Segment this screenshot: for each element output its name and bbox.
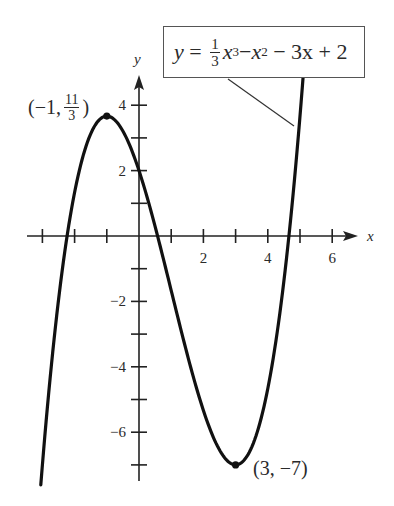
x-axis-label: x: [366, 228, 374, 244]
eq-term1: x: [223, 39, 233, 65]
y-tick-label: 2: [119, 163, 127, 179]
eq-lhs: y: [174, 39, 184, 65]
max-label-suffix: ): [82, 96, 89, 119]
max-label-fraction: 11 3: [64, 92, 79, 123]
equation-leader-line: [228, 79, 294, 126]
eq-fraction: 1 3: [210, 36, 220, 69]
y-tick-label: −2: [110, 293, 126, 309]
y-axis-label: y: [132, 51, 141, 67]
max-label-prefix: (−1,: [28, 96, 61, 119]
axes: [27, 75, 358, 481]
equation-box: y = 1 3 x3 − x2 − 3x + 2: [163, 26, 365, 78]
x-tick-label: 4: [264, 250, 272, 266]
local-min-label: (3, −7): [253, 457, 308, 480]
max-frac-den: 3: [68, 108, 75, 123]
local-max-point: [103, 112, 110, 119]
x-tick-label: 2: [200, 250, 208, 266]
x-tick-label: 6: [328, 250, 336, 266]
y-tick-label: −4: [110, 359, 126, 375]
eq-rest-text: − 3x + 2: [273, 39, 347, 65]
eq-frac-num: 1: [210, 36, 220, 53]
eq-frac-den: 3: [211, 53, 219, 69]
y-tick-label: −6: [110, 424, 126, 440]
eq-equals: =: [184, 39, 207, 65]
y-tick-label: 4: [119, 97, 127, 113]
max-frac-num: 11: [64, 92, 79, 108]
eq-term2: x: [251, 39, 261, 65]
eq-minus: −: [239, 39, 251, 65]
local-max-label: (−1, 11 3 ): [28, 92, 89, 123]
local-min-point: [232, 461, 239, 468]
